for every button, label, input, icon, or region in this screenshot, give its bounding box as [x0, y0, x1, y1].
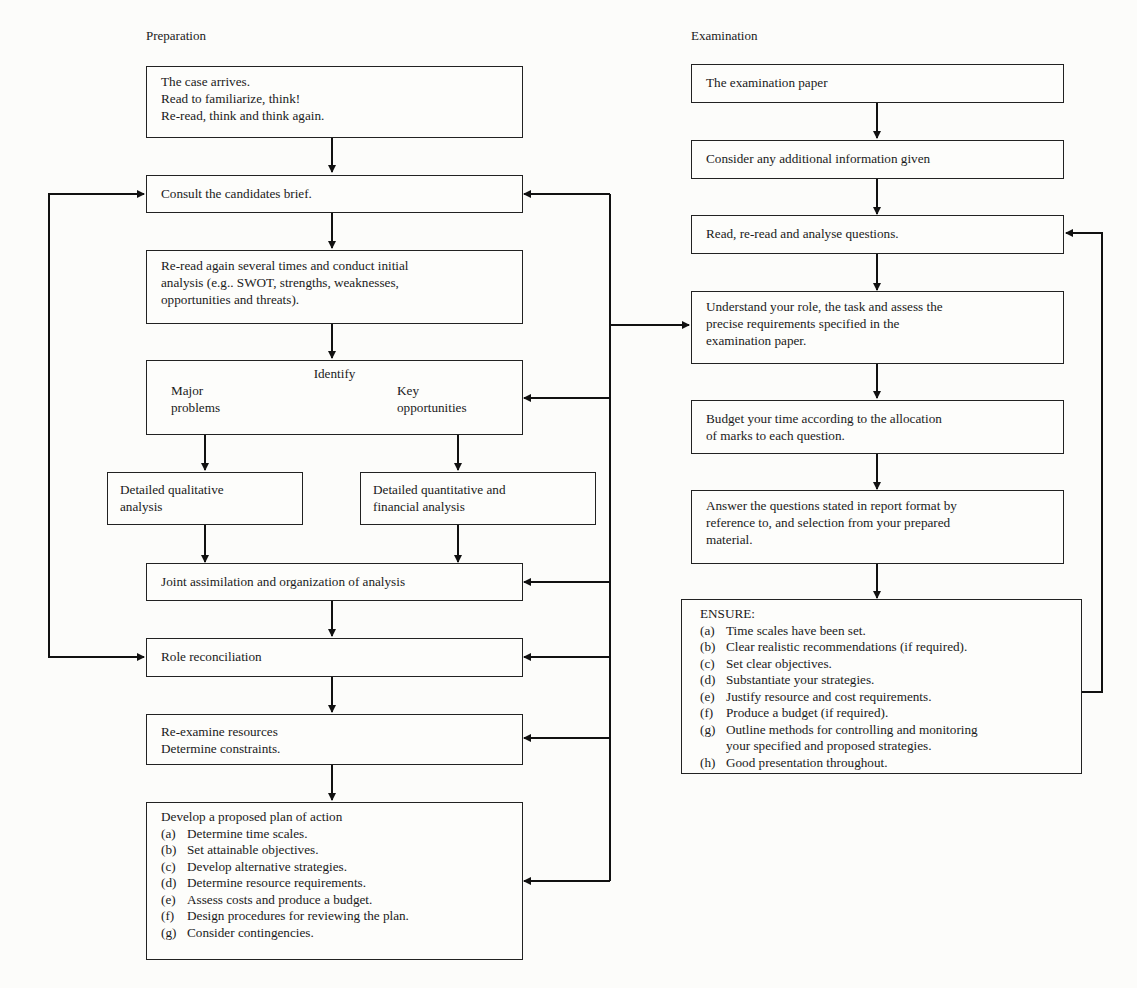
- text-line: material.: [706, 531, 1049, 548]
- text-line: opportunities: [397, 399, 467, 416]
- item-label: (f): [161, 908, 187, 925]
- item-text: Time scales have been set.: [726, 623, 866, 640]
- ensure-item: (a)Time scales have been set.: [700, 623, 1063, 640]
- plan-item: (c)Develop alternative strategies.: [161, 859, 508, 876]
- item-label: (g): [161, 925, 187, 942]
- item-label: (b): [161, 842, 187, 859]
- text-line: opportunities and threats).: [161, 291, 508, 308]
- item-label: (e): [161, 892, 187, 909]
- box-understand-role: Understand your role, the task and asses…: [691, 291, 1064, 364]
- item-text: Clear realistic recommendations (if requ…: [726, 639, 967, 656]
- item-text: Justify resource and cost requirements.: [726, 689, 931, 706]
- box-examination-paper: The examination paper: [691, 64, 1064, 103]
- text-line: Joint assimilation and organization of a…: [161, 573, 508, 590]
- box-ensure: ENSURE: (a)Time scales have been set. (b…: [681, 599, 1082, 774]
- text-line: Re-examine resources: [161, 723, 508, 740]
- box-read-questions: Read, re-read and analyse questions.: [691, 215, 1064, 254]
- text-line: Role reconciliation: [161, 648, 508, 665]
- box-reexamine-resources: Re-examine resources Determine constrain…: [146, 714, 523, 765]
- item-label: (f): [700, 705, 726, 722]
- item-text: Consider contingencies.: [187, 925, 314, 942]
- text-line: Major: [171, 382, 220, 399]
- ensure-item: (d)Substantiate your strategies.: [700, 672, 1063, 689]
- text-line: The case arrives.: [161, 73, 508, 90]
- item-text: Determine time scales.: [187, 826, 307, 843]
- plan-item: (b)Set attainable objectives.: [161, 842, 508, 859]
- plan-item: (d)Determine resource requirements.: [161, 875, 508, 892]
- text-line: Read, re-read and analyse questions.: [706, 225, 1049, 242]
- box-answer-questions: Answer the questions stated in report fo…: [691, 490, 1064, 564]
- text-line: Detailed qualitative: [120, 481, 290, 498]
- item-label: (d): [161, 875, 187, 892]
- box-plan-of-action: Develop a proposed plan of action (a)Det…: [146, 802, 523, 960]
- plan-item: (f)Design procedures for reviewing the p…: [161, 908, 508, 925]
- box-identify: Identify Major problems Key opportunitie…: [146, 360, 523, 435]
- item-text: Substantiate your strategies.: [726, 672, 874, 689]
- text-line: analysis: [120, 498, 290, 515]
- text-line: Determine constraints.: [161, 740, 508, 757]
- plan-title: Develop a proposed plan of action: [161, 809, 508, 826]
- text-line: Budget your time according to the alloca…: [706, 410, 1049, 427]
- box-case-arrives: The case arrives. Read to familiarize, t…: [146, 66, 523, 138]
- ensure-item: (h)Good presentation throughout.: [700, 755, 1063, 772]
- item-label: (c): [161, 859, 187, 876]
- text-line: Re-read, think and think again.: [161, 107, 508, 124]
- identify-major-problems: Major problems: [171, 382, 220, 416]
- text-line: financial analysis: [373, 498, 583, 515]
- heading-examination: Examination: [691, 28, 757, 44]
- item-text: Produce a budget (if required).: [726, 705, 888, 722]
- text-line: The examination paper: [706, 74, 1049, 91]
- ensure-item: (f)Produce a budget (if required).: [700, 705, 1063, 722]
- text-line: Understand your role, the task and asses…: [706, 298, 1049, 315]
- text-line: Key: [397, 382, 467, 399]
- item-label: (a): [700, 623, 726, 640]
- text-line: Re-read again several times and conduct …: [161, 257, 508, 274]
- ensure-item: (g)Outline methods for controlling and m…: [700, 722, 1063, 739]
- plan-item: (a)Determine time scales.: [161, 826, 508, 843]
- box-joint-assimilation: Joint assimilation and organization of a…: [146, 563, 523, 601]
- item-text: Design procedures for reviewing the plan…: [187, 908, 409, 925]
- item-text: Set clear objectives.: [726, 656, 832, 673]
- ensure-item: (e)Justify resource and cost requirement…: [700, 689, 1063, 706]
- box-budget-time: Budget your time according to the alloca…: [691, 400, 1064, 454]
- identify-key-opportunities: Key opportunities: [397, 382, 467, 416]
- item-label: (c): [700, 656, 726, 673]
- item-text: Good presentation throughout.: [726, 755, 888, 772]
- item-label: (d): [700, 672, 726, 689]
- ensure-item: (c)Set clear objectives.: [700, 656, 1063, 673]
- heading-preparation: Preparation: [146, 28, 206, 44]
- box-additional-info: Consider any additional information give…: [691, 140, 1064, 179]
- box-quantitative-analysis: Detailed quantitative and financial anal…: [360, 472, 596, 525]
- plan-item: (e)Assess costs and produce a budget.: [161, 892, 508, 909]
- text-line: of marks to each question.: [706, 427, 1049, 444]
- ensure-title: ENSURE:: [700, 606, 1063, 623]
- text-line: Consider any additional information give…: [706, 150, 1049, 167]
- item-text: Outline methods for controlling and moni…: [726, 722, 978, 739]
- text-line: Detailed quantitative and: [373, 481, 583, 498]
- item-label: (b): [700, 639, 726, 656]
- item-label: (g): [700, 722, 726, 739]
- item-label: (h): [700, 755, 726, 772]
- identify-title: Identify: [147, 365, 522, 382]
- text-line: Read to familiarize, think!: [161, 90, 508, 107]
- text-line: problems: [171, 399, 220, 416]
- text-line: Consult the candidates brief.: [161, 185, 508, 202]
- text-line: analysis (e.g.. SWOT, strengths, weaknes…: [161, 274, 508, 291]
- item-label: (a): [161, 826, 187, 843]
- box-reread-analysis: Re-read again several times and conduct …: [146, 250, 523, 324]
- text-line: reference to, and selection from your pr…: [706, 514, 1049, 531]
- item-text: Determine resource requirements.: [187, 875, 366, 892]
- ensure-item: (b)Clear realistic recommendations (if r…: [700, 639, 1063, 656]
- item-text: Develop alternative strategies.: [187, 859, 347, 876]
- box-qualitative-analysis: Detailed qualitative analysis: [107, 472, 303, 525]
- text-line: precise requirements specified in the: [706, 315, 1049, 332]
- text-line: Answer the questions stated in report fo…: [706, 497, 1049, 514]
- box-consult-brief: Consult the candidates brief.: [146, 175, 523, 213]
- item-label: (e): [700, 689, 726, 706]
- plan-item: (g)Consider contingencies.: [161, 925, 508, 942]
- ensure-item-continuation: your specified and proposed strategies.: [700, 738, 1063, 755]
- item-text: Set attainable objectives.: [187, 842, 318, 859]
- text-line: examination paper.: [706, 332, 1049, 349]
- item-text: Assess costs and produce a budget.: [187, 892, 372, 909]
- box-role-reconciliation: Role reconciliation: [146, 638, 523, 677]
